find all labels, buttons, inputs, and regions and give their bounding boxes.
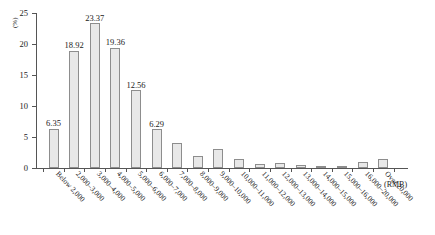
bar-value-label: 23.37 (85, 14, 104, 23)
y-axis-tick-label: 20 (20, 40, 29, 49)
bar (255, 164, 265, 168)
bar (213, 149, 223, 168)
y-axis-tick: 0 (32, 168, 37, 169)
bar-value-label: 6.29 (149, 120, 164, 129)
bar (172, 143, 182, 168)
y-axis-tick-label: 15 (20, 71, 29, 80)
y-axis-tick-label: 25 (20, 9, 29, 18)
bar (275, 163, 285, 168)
bar-value-label: 6.35 (46, 119, 61, 128)
bar-series: 6.3518.9223.3719.3612.566.29 (36, 13, 408, 168)
y-axis-tick-label: 10 (20, 102, 29, 111)
bar-value-label: 12.56 (126, 81, 145, 90)
bar (378, 159, 388, 168)
y-axis-tick-label: 5 (24, 133, 28, 142)
plot-area: 0510152025 6.3518.9223.3719.3612.566.29 (36, 13, 408, 168)
bar-value-label: 19.36 (106, 38, 125, 47)
y-axis-unit-label: (%) (2, 0, 9, 8)
bar (358, 162, 368, 168)
bar (337, 166, 347, 168)
x-axis-category-labels: Below 2,0002,000–3,0003,000–4,0004,000–5… (36, 170, 408, 230)
x-axis-unit-label: (RMB) (384, 181, 407, 189)
bar (316, 166, 326, 168)
bar (193, 156, 203, 168)
bar-chart: (%) 0510152025 6.3518.9223.3719.3612.566… (0, 0, 435, 235)
bar-value-label: 18.92 (65, 41, 84, 50)
y-axis-tick-label: 0 (24, 164, 28, 173)
bar: 18.92 (69, 51, 79, 168)
bar: 19.36 (110, 48, 120, 168)
bar: 12.56 (131, 90, 141, 168)
bar (296, 165, 306, 168)
bar: 6.29 (152, 129, 162, 168)
bar: 23.37 (90, 23, 100, 168)
bar (234, 159, 244, 168)
bar: 6.35 (49, 129, 59, 168)
